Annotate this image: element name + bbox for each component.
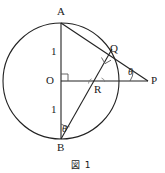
geometry-diagram xyxy=(0,0,165,173)
point-label-O: O xyxy=(46,75,54,86)
right-angle-mark-O xyxy=(61,74,68,81)
point-label-P: P xyxy=(151,75,157,86)
point-label-R: R xyxy=(94,84,101,95)
point-label-Q: Q xyxy=(110,43,118,54)
angle-label-theta-P: θ xyxy=(128,67,133,77)
segment-AP xyxy=(61,23,148,81)
point-label-B: B xyxy=(57,142,64,153)
figure-1-container: A B O P Q R 1 1 θ θ 図 1 xyxy=(0,0,165,173)
angle-label-theta-B: θ xyxy=(62,124,67,134)
length-label-OB: 1 xyxy=(51,104,57,115)
length-label-OA: 1 xyxy=(51,46,57,57)
figure-caption: 図 1 xyxy=(71,158,92,171)
point-label-A: A xyxy=(57,6,65,17)
